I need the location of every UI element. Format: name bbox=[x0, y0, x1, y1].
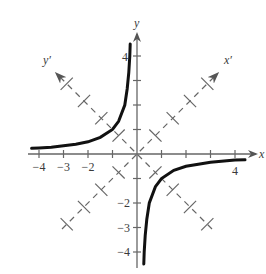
plot-canvas: −4 −3 −2 4 4 −2 −3 −4 y x x′ y′ bbox=[0, 0, 266, 274]
x-prime-axis-label: x′ bbox=[223, 53, 232, 67]
hyperbola-figure: −4 −3 −2 4 4 −2 −3 −4 y x x′ y′ bbox=[0, 0, 266, 274]
y-axis-label: y bbox=[133, 16, 140, 30]
y-tick-label: −2 bbox=[117, 196, 130, 210]
y-prime-axis-label: y′ bbox=[42, 53, 51, 67]
y-prime-axis bbox=[57, 74, 213, 230]
x-axis-label: x bbox=[258, 147, 265, 161]
y-tick-label: 4 bbox=[122, 50, 128, 64]
x-tick-label: 4 bbox=[232, 164, 238, 178]
y-tick-label: −3 bbox=[117, 221, 130, 235]
x-tick-label: −2 bbox=[82, 160, 95, 174]
x-tick-label: −3 bbox=[57, 160, 70, 174]
x-prime-axis bbox=[61, 74, 217, 230]
x-axis bbox=[28, 150, 256, 158]
x-tick-label: −4 bbox=[33, 160, 46, 174]
y-tick-label: −4 bbox=[117, 245, 130, 259]
